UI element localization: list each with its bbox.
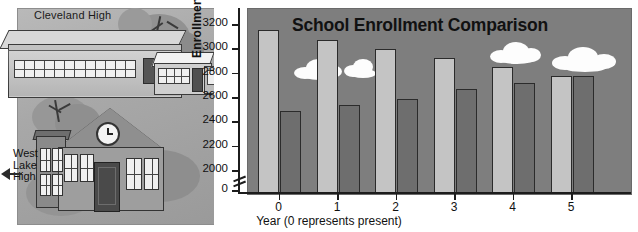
bar-cleveland-year-4 [492,67,513,194]
x-axis-tick-label: 5 [556,200,586,214]
x-axis-title: Year (0 represents present) [0,214,638,228]
y-axis-tick-label: 3000 [0,40,228,52]
y-axis-tick [232,121,239,123]
bar-westlake-year-0 [280,111,301,194]
bar-cleveland-year-5 [551,76,572,194]
y-axis-tick-label: 3200 [0,16,228,28]
x-axis-tick-label: 0 [264,200,294,214]
bar-cleveland-year-3 [434,58,455,194]
x-axis-tick-label: 1 [322,200,352,214]
bar-westlake-year-2 [397,99,418,194]
bar-westlake-year-3 [456,89,477,194]
y-axis-tick [232,73,239,75]
y-axis-tick [232,146,239,148]
enrollment-comparison-figure: Cleveland High West Lake High Enrollment [0,0,638,232]
chart-plot-area: School Enrollment Comparison [247,8,632,195]
chart-title: School Enrollment Comparison [292,15,548,36]
y-axis-tick-label: 0 [0,182,228,194]
axis-break-icon [233,176,245,186]
bar-westlake-year-4 [514,83,535,194]
west-lake-label-line-1: West [13,148,38,160]
bar-westlake-year-1 [339,105,360,194]
bar-cleveland-year-2 [375,49,396,194]
x-axis-title-text: Year (0 represents present) [236,214,402,228]
y-axis-tick-label: 2200 [0,138,228,150]
y-axis-tick [232,48,239,50]
y-axis-tick [232,24,239,26]
y-axis-tick [232,97,239,99]
y-axis-tick [232,170,239,172]
chart-bars-layer [248,9,631,194]
y-axis-tick-label: 2000 [0,162,228,174]
bar-cleveland-year-1 [317,40,338,194]
building-wing [152,52,214,112]
y-axis-line [238,8,240,194]
x-axis-tick-label: 2 [381,200,411,214]
y-axis-tick-label: 2600 [0,89,228,101]
y-axis-tick-label: 2800 [0,65,228,77]
x-axis-tick-label: 3 [439,200,469,214]
y-axis-tick [232,190,239,192]
y-axis-tick-label: 2400 [0,113,228,125]
x-axis-tick-label: 4 [498,200,528,214]
bar-cleveland-year-0 [258,30,279,194]
bar-westlake-year-5 [573,76,594,194]
